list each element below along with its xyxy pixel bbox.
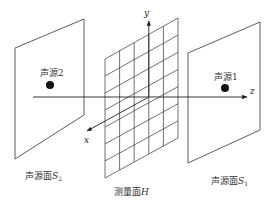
y-axis-label: y: [144, 9, 149, 18]
source-1-dot: [221, 84, 229, 92]
source-plane-s1-subscript: 1: [244, 180, 248, 187]
measurement-plane-caption: 测量面H: [114, 188, 149, 197]
measurement-plane-grid: [105, 18, 178, 178]
x-axis: [87, 97, 149, 131]
source-1-label: 声源1: [214, 73, 238, 82]
measurement-plane-caption-text: 测量面: [114, 187, 141, 197]
source-2-label: 声源2: [40, 69, 64, 78]
source-plane-s2: [15, 19, 84, 159]
source-2-dot: [46, 81, 54, 89]
source-plane-s1-caption: 声源面S1: [211, 177, 248, 187]
source-plane-s2-caption-text: 声源面: [25, 171, 52, 181]
source-plane-s1-caption-text: 声源面: [211, 176, 238, 186]
x-axis-label: x: [84, 136, 89, 145]
z-axis-label: z: [250, 87, 255, 96]
measurement-plane-symbol: H: [141, 187, 149, 197]
source-plane-s2-subscript: 2: [58, 175, 62, 182]
source-plane-s2-caption: 声源面S2: [25, 172, 62, 182]
